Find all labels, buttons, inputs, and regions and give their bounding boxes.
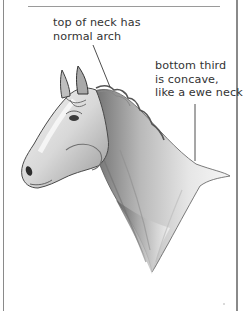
- annotation-line: normal arch: [53, 30, 141, 44]
- horse-neck: [92, 89, 230, 274]
- leader-line-top-of-neck: [93, 45, 110, 87]
- annotation-line: is concave,: [155, 73, 243, 87]
- horse-head: [22, 66, 109, 188]
- speck: [223, 303, 225, 305]
- horse-illustration: [0, 0, 251, 311]
- annotation-line: top of neck has: [53, 16, 141, 30]
- annotation-bottom-third: bottom third is concave, like a ewe neck: [155, 59, 243, 100]
- annotation-top-of-neck: top of neck has normal arch: [53, 16, 141, 43]
- annotation-line: like a ewe neck: [155, 86, 243, 100]
- horse-eye: [69, 115, 79, 121]
- horse-ear-right: [77, 66, 89, 94]
- annotation-line: bottom third: [155, 59, 243, 73]
- horse-ear-left: [61, 70, 71, 98]
